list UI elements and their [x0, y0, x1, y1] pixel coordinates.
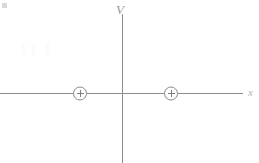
smudge-mark: [32, 44, 35, 56]
positive-charge-right: [165, 87, 178, 100]
smudge-mark: [22, 44, 25, 56]
corner-speck: [2, 3, 7, 8]
potential-axis-label: V: [116, 3, 124, 16]
positive-charge-left: [74, 87, 87, 100]
smudge-mark: [45, 42, 49, 55]
charge-diagram-svg: [0, 0, 259, 163]
figure-canvas: V x: [0, 0, 259, 163]
scan-artifacts: [2, 3, 49, 56]
position-axis-label: x: [248, 87, 253, 98]
